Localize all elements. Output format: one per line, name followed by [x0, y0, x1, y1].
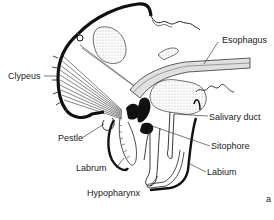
label-labrum: Labrum	[76, 163, 107, 173]
hypopharynx-shape	[144, 128, 160, 186]
cibarium-sclerites	[126, 98, 153, 135]
label-pestle: Pestle	[58, 133, 83, 143]
salivary-region	[150, 80, 206, 115]
label-sitophore: Sitophore	[211, 141, 250, 151]
label-clypeus: Clypeus	[8, 71, 41, 81]
label-esophagus: Esophagus	[222, 35, 267, 45]
labrum-shape	[108, 118, 136, 170]
mouthparts-diagram	[0, 0, 274, 220]
label-labium: Labium	[207, 167, 237, 177]
panel-letter: a	[266, 194, 271, 204]
brain-region	[93, 27, 126, 64]
label-hypopharynx: Hypopharynx	[87, 188, 140, 198]
salivary-duct-tube	[167, 112, 174, 159]
pharyngeal-pouch	[158, 48, 178, 60]
label-salivary-duct: Salivary duct	[209, 112, 261, 122]
